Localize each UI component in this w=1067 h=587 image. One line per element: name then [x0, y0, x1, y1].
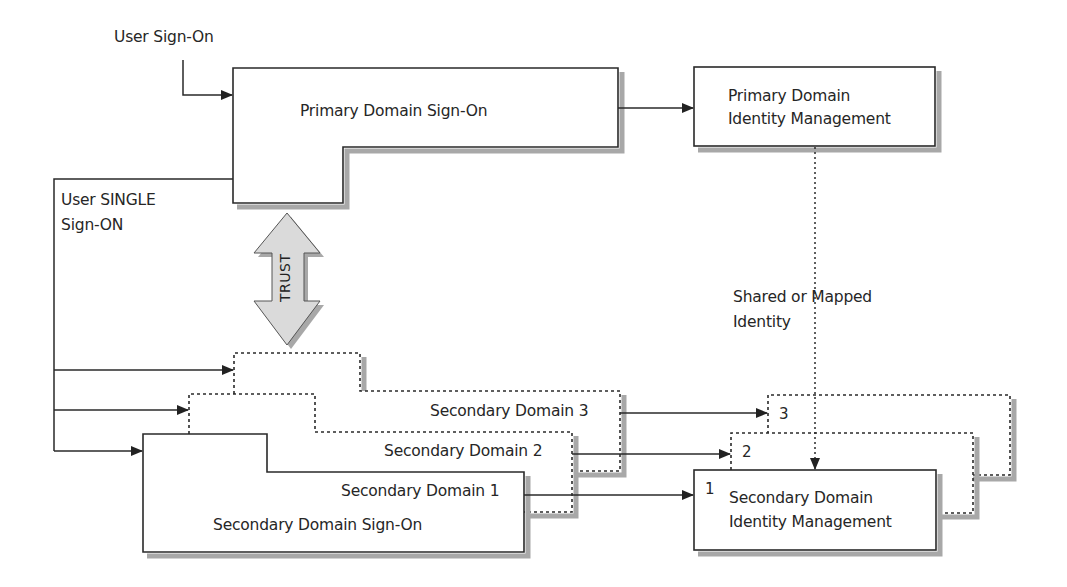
primary-idm-label-line2: Identity Management: [728, 109, 891, 129]
trust-label: TRUST: [277, 254, 297, 302]
secondary-domain-1-label: Secondary Domain 1: [341, 481, 499, 501]
secondary-idm-3-number: 3: [779, 405, 789, 423]
shared-identity-label-line1: Shared or Mapped: [733, 287, 872, 307]
primary-idm-label-line1: Primary Domain: [728, 86, 850, 106]
secondary-idm-2-number: 2: [742, 443, 752, 461]
secondary-idm-1-number: 1: [705, 480, 715, 498]
user-single-sign-on-label-line2: Sign-ON: [61, 215, 123, 235]
sso-diagram: User Sign-On Primary Domain Sign-On Prim…: [0, 0, 1067, 587]
diagram-shapes: [0, 0, 1067, 587]
secondary-domain-3-label: Secondary Domain 3: [430, 401, 588, 421]
secondary-idm-label-line2: Identity Management: [729, 512, 892, 532]
user-sign-on-label: User Sign-On: [114, 27, 214, 47]
user-sign-on-connector: [183, 60, 232, 95]
primary-sign-on-label: Primary Domain Sign-On: [300, 101, 487, 121]
shared-identity-label-line2: Identity: [733, 312, 791, 332]
user-single-sign-on-label-line1: User SINGLE: [61, 190, 156, 210]
secondary-sign-on-label: Secondary Domain Sign-On: [213, 515, 422, 535]
secondary-idm-label-line1: Secondary Domain: [729, 488, 873, 508]
secondary-domain-2-label: Secondary Domain 2: [384, 441, 542, 461]
primary-sign-on-box: [233, 68, 622, 207]
